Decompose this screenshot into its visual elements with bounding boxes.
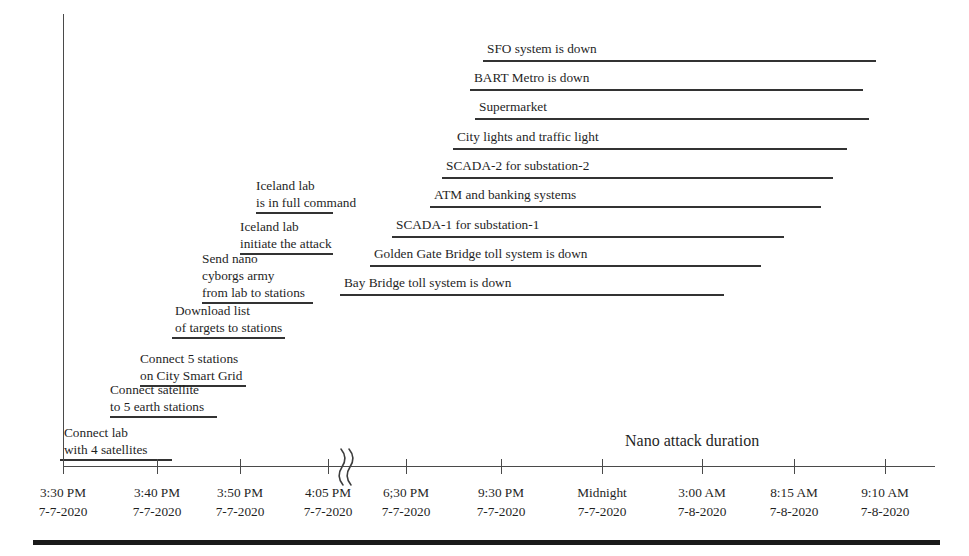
activity-label-line: Download list bbox=[175, 302, 282, 319]
activity-bar-scada-2-for-substation-2[interactable] bbox=[442, 177, 833, 179]
activity-label-bay-bridge-toll-system-is-down: Bay Bridge toll system is down bbox=[344, 275, 511, 292]
x-tick-time: 3:50 PM bbox=[217, 485, 263, 500]
activity-bar-bay-bridge-toll-system-is-down[interactable] bbox=[340, 294, 724, 296]
x-axis-tick-label: 6;30 PM7-7-2020 bbox=[354, 483, 458, 521]
activity-label-line: Connect lab bbox=[64, 424, 147, 441]
x-axis-tick bbox=[501, 459, 502, 474]
activity-label-city-lights-and-traffic-light: City lights and traffic light bbox=[457, 129, 599, 146]
x-tick-date: 7-7-2020 bbox=[11, 502, 115, 521]
activity-label-send-nano-cyborgs-army-from-lab-to-stations: Send nanocyborgs armyfrom lab to station… bbox=[202, 250, 305, 301]
x-tick-date: 7-8-2020 bbox=[650, 502, 754, 521]
activity-label-line: SFO system is down bbox=[487, 41, 597, 58]
activity-label-line: SCADA-1 for substation-1 bbox=[396, 217, 539, 234]
activity-bar-supermarket[interactable] bbox=[475, 118, 869, 120]
x-axis-tick bbox=[157, 459, 158, 474]
x-axis-tick-label: 8:15 AM7-8-2020 bbox=[742, 483, 846, 521]
activity-label-line: Supermarket bbox=[479, 99, 547, 116]
activity-bar-atm-and-banking-systems[interactable] bbox=[430, 206, 821, 208]
x-axis-tick bbox=[885, 459, 886, 474]
activity-bar-download-list-of-targets-to-stations[interactable] bbox=[172, 337, 285, 339]
activity-label-golden-gate-bridge-toll-system-is-down: Golden Gate Bridge toll system is down bbox=[374, 246, 587, 263]
activity-label-line: Golden Gate Bridge toll system is down bbox=[374, 246, 587, 263]
x-tick-time: 8:15 AM bbox=[770, 485, 818, 500]
x-axis-tick-label: 9:30 PM7-7-2020 bbox=[449, 483, 553, 521]
x-tick-time: 3:40 PM bbox=[134, 485, 180, 500]
activity-label-line: Connect 5 stations bbox=[140, 350, 242, 367]
bottom-rule bbox=[33, 540, 940, 545]
activity-label-line: Iceland lab bbox=[240, 218, 332, 235]
y-axis-line bbox=[63, 14, 64, 466]
activity-label-line: ATM and banking systems bbox=[434, 187, 576, 204]
x-tick-date: 7-8-2020 bbox=[742, 502, 846, 521]
activity-label-connect-5-stations-on-city-smart-grid: Connect 5 stationson City Smart Grid bbox=[140, 350, 242, 384]
activity-label-connect-satellite-to-5-earth-stations: Connect satelliteto 5 earth stations bbox=[110, 381, 204, 415]
activity-label-iceland-lab-is-in-full-command: Iceland labis in full command bbox=[256, 177, 356, 211]
x-tick-time: 3:00 AM bbox=[678, 485, 726, 500]
activity-label-line: with 4 satellites bbox=[64, 441, 147, 458]
activity-label-line: from lab to stations bbox=[202, 284, 305, 301]
activity-label-line: Connect satellite bbox=[110, 381, 204, 398]
activity-bar-sfo-system-is-down[interactable] bbox=[483, 60, 876, 62]
activity-label-line: Bay Bridge toll system is down bbox=[344, 275, 511, 292]
activity-label-line: City lights and traffic light bbox=[457, 129, 599, 146]
activity-label-iceland-lab-initiate-the-attack: Iceland labinitiate the attack bbox=[240, 218, 332, 252]
activity-bar-connect-satellite-to-5-earth-stations[interactable] bbox=[110, 416, 217, 418]
activity-label-line: SCADA-2 for substation-2 bbox=[446, 158, 589, 175]
activity-bar-golden-gate-bridge-toll-system-is-down[interactable] bbox=[370, 265, 761, 267]
activity-label-download-list-of-targets-to-stations: Download listof targets to stations bbox=[175, 302, 282, 336]
x-axis-line bbox=[63, 466, 935, 467]
x-tick-time: 9:30 PM bbox=[478, 485, 524, 500]
x-axis-tick bbox=[702, 459, 703, 474]
activity-bar-connect-lab-with-4-satellites[interactable] bbox=[60, 459, 172, 461]
activity-label-line: Iceland lab bbox=[256, 177, 356, 194]
activity-label-bart-metro-is-down: BART Metro is down bbox=[474, 70, 589, 87]
x-tick-time: Midnight bbox=[577, 485, 627, 500]
activity-label-line: to 5 earth stations bbox=[110, 398, 204, 415]
x-axis-tick-label: 9:10 AM7-8-2020 bbox=[833, 483, 937, 521]
activity-bar-scada-1-for-substation-1[interactable] bbox=[392, 236, 784, 238]
x-tick-time: 9:10 AM bbox=[861, 485, 909, 500]
timeline-chart: Attack activities SFO system is downBART… bbox=[0, 0, 969, 556]
x-tick-date: 7-7-2020 bbox=[550, 502, 654, 521]
activity-label-line: is in full command bbox=[256, 194, 356, 211]
x-axis-tick bbox=[602, 459, 603, 474]
x-axis-tick bbox=[406, 459, 407, 474]
x-axis-tick bbox=[328, 459, 329, 474]
nano-attack-duration-annotation: Nano attack duration bbox=[625, 432, 759, 450]
x-tick-time: 6;30 PM bbox=[383, 485, 429, 500]
x-tick-time: 3:30 PM bbox=[40, 485, 86, 500]
x-axis-tick bbox=[794, 459, 795, 474]
x-tick-date: 7-7-2020 bbox=[354, 502, 458, 521]
x-tick-date: 7-7-2020 bbox=[449, 502, 553, 521]
x-axis-tick-label: 3:30 PM7-7-2020 bbox=[11, 483, 115, 521]
activity-label-atm-and-banking-systems: ATM and banking systems bbox=[434, 187, 576, 204]
activity-label-line: cyborgs army bbox=[202, 267, 305, 284]
x-tick-date: 7-8-2020 bbox=[833, 502, 937, 521]
activity-label-scada-1-for-substation-1: SCADA-1 for substation-1 bbox=[396, 217, 539, 234]
activity-bar-bart-metro-is-down[interactable] bbox=[470, 89, 863, 91]
x-axis-tick bbox=[240, 459, 241, 474]
activity-bar-iceland-lab-is-in-full-command[interactable] bbox=[256, 212, 333, 214]
activity-label-supermarket: Supermarket bbox=[479, 99, 547, 116]
x-axis-tick bbox=[63, 459, 64, 474]
activity-label-scada-2-for-substation-2: SCADA-2 for substation-2 bbox=[446, 158, 589, 175]
axis-break-icon bbox=[334, 447, 360, 487]
activity-label-line: Send nano bbox=[202, 250, 305, 267]
activity-label-line: BART Metro is down bbox=[474, 70, 589, 87]
x-axis-tick-label: Midnight7-7-2020 bbox=[550, 483, 654, 521]
x-axis-tick-label: 3:00 AM7-8-2020 bbox=[650, 483, 754, 521]
activity-bar-city-lights-and-traffic-light[interactable] bbox=[453, 148, 847, 150]
activity-label-connect-lab-with-4-satellites: Connect labwith 4 satellites bbox=[64, 424, 147, 458]
activity-label-line: of targets to stations bbox=[175, 319, 282, 336]
x-tick-time: 4:05 PM bbox=[305, 485, 351, 500]
activity-label-sfo-system-is-down: SFO system is down bbox=[487, 41, 597, 58]
